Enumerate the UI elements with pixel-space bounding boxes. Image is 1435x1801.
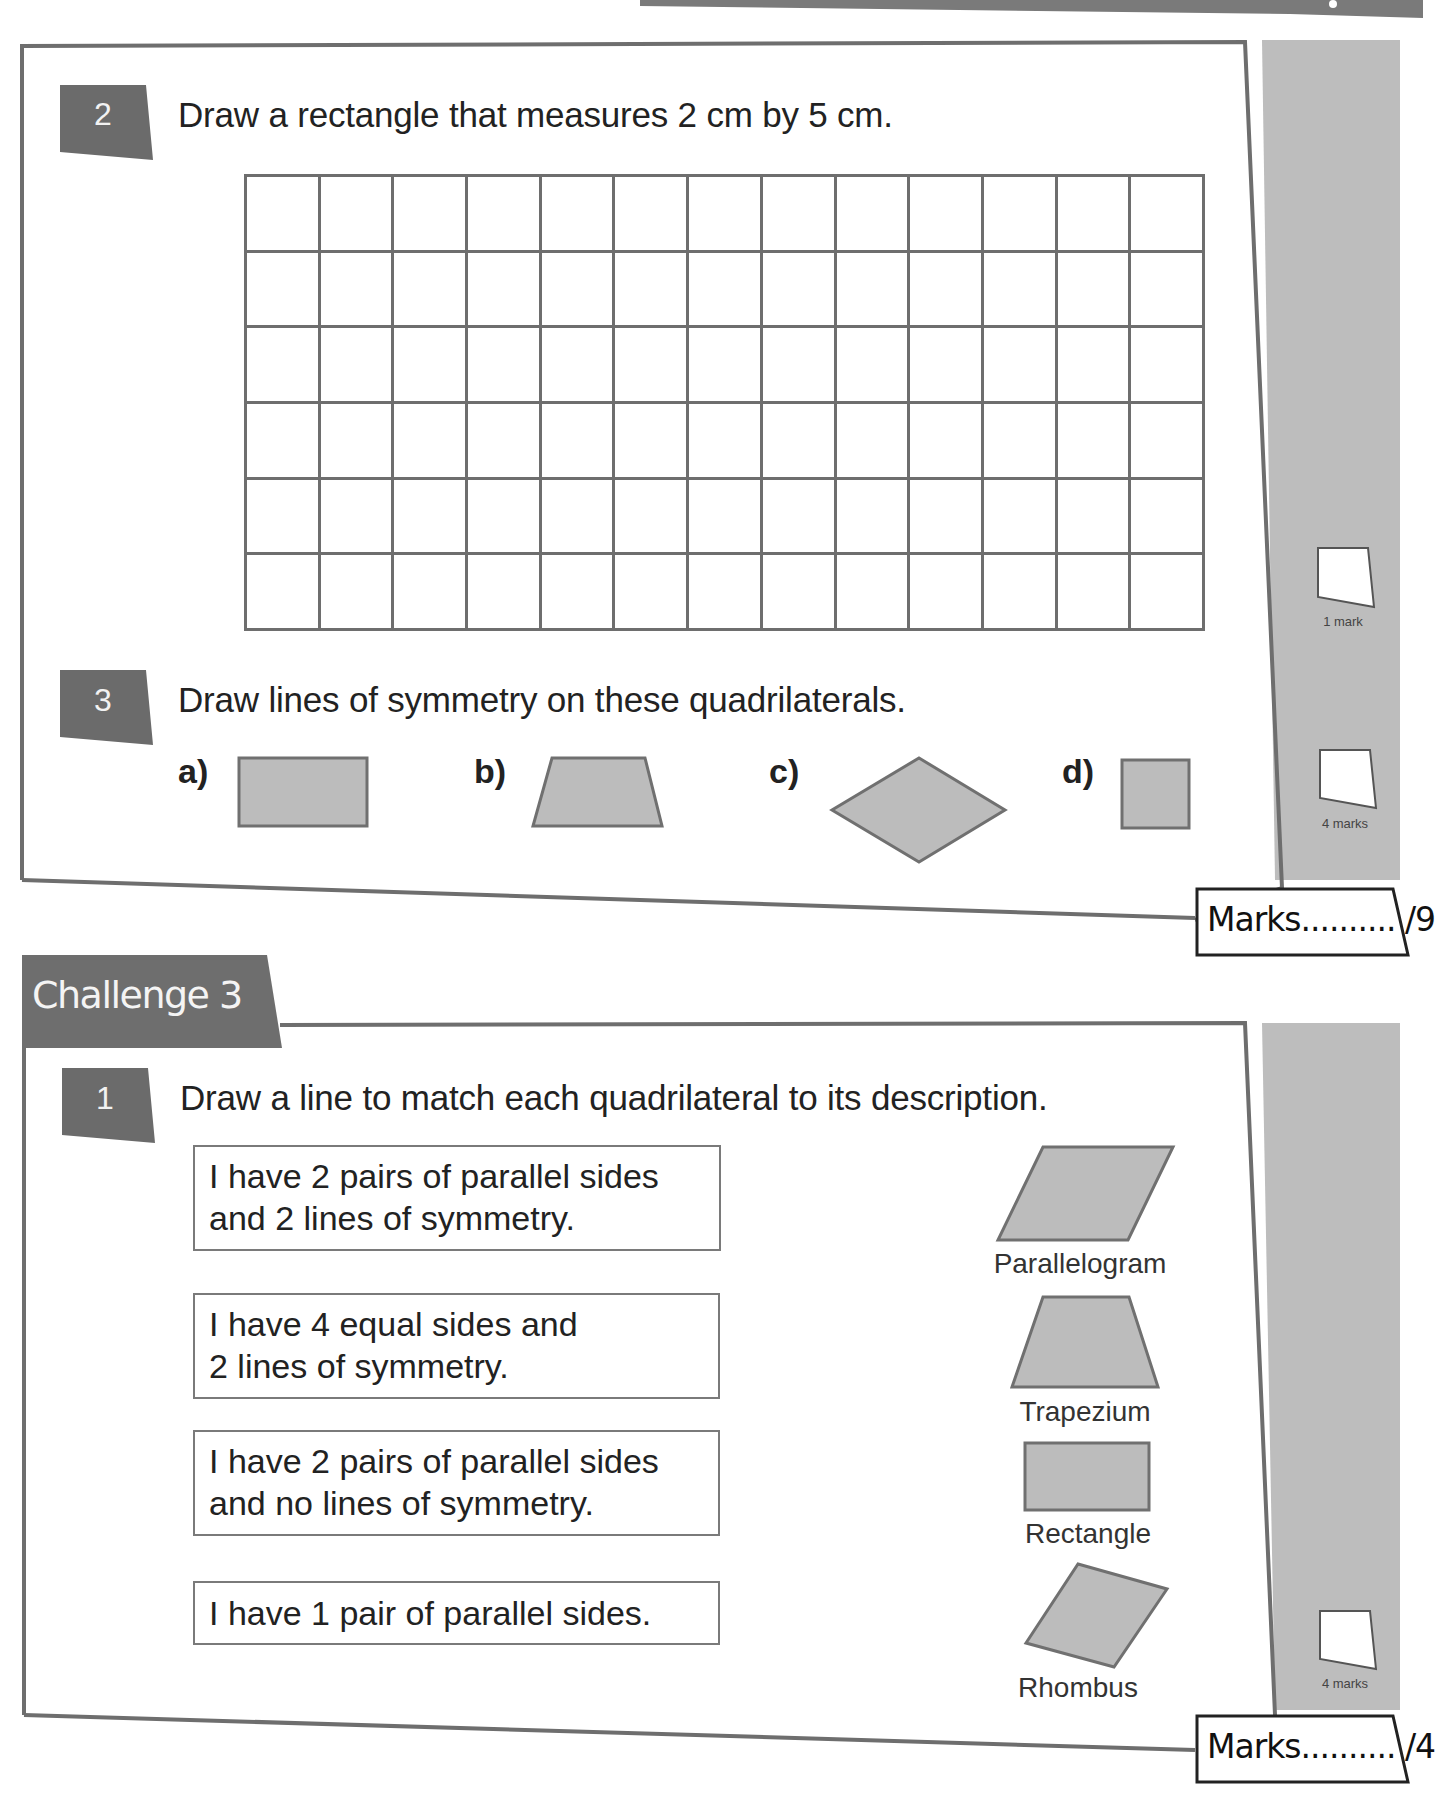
grid-cell[interactable] bbox=[1131, 328, 1205, 404]
grid-cell[interactable] bbox=[837, 555, 911, 631]
grid-cell[interactable] bbox=[763, 177, 837, 253]
grid-cell[interactable] bbox=[542, 555, 616, 631]
grid-cell[interactable] bbox=[615, 328, 689, 404]
question-3-number: 3 bbox=[60, 682, 146, 719]
shape-d-square bbox=[1122, 760, 1189, 828]
grid-cell[interactable] bbox=[910, 555, 984, 631]
grid-cell[interactable] bbox=[1131, 177, 1205, 253]
grid-cell[interactable] bbox=[468, 480, 542, 556]
grid-cell[interactable] bbox=[1058, 253, 1132, 329]
shape-label-rectangle: Rectangle bbox=[998, 1518, 1178, 1550]
grid-cell[interactable] bbox=[910, 404, 984, 480]
grid-cell[interactable] bbox=[468, 404, 542, 480]
grid-cell[interactable] bbox=[984, 480, 1058, 556]
grid-cell[interactable] bbox=[247, 480, 321, 556]
grid-cell[interactable] bbox=[1058, 555, 1132, 631]
grid-cell[interactable] bbox=[321, 253, 395, 329]
grid-cell[interactable] bbox=[689, 177, 763, 253]
grid-cell[interactable] bbox=[689, 253, 763, 329]
section-bottom-bottom-border bbox=[24, 1715, 1195, 1750]
mark-box-challenge[interactable] bbox=[1320, 1611, 1376, 1669]
grid-cell[interactable] bbox=[468, 253, 542, 329]
grid-cell[interactable] bbox=[394, 480, 468, 556]
grid-cell[interactable] bbox=[763, 404, 837, 480]
grid-cell[interactable] bbox=[689, 480, 763, 556]
grid-cell[interactable] bbox=[689, 404, 763, 480]
grid-cell[interactable] bbox=[615, 253, 689, 329]
grid-cell[interactable] bbox=[984, 404, 1058, 480]
mark-note-q3: 4 marks bbox=[1300, 816, 1390, 831]
grid-cell[interactable] bbox=[542, 253, 616, 329]
sidebar-bottom bbox=[1262, 1023, 1400, 1710]
grid-cell[interactable] bbox=[468, 328, 542, 404]
grid-cell[interactable] bbox=[763, 555, 837, 631]
grid-cell[interactable] bbox=[321, 177, 395, 253]
grid-cell[interactable] bbox=[910, 253, 984, 329]
grid-cell[interactable] bbox=[394, 404, 468, 480]
grid-cell[interactable] bbox=[689, 555, 763, 631]
grid-cell[interactable] bbox=[542, 480, 616, 556]
grid-cell[interactable] bbox=[321, 404, 395, 480]
shape-trapezium bbox=[1012, 1297, 1158, 1387]
grid-cell[interactable] bbox=[1058, 328, 1132, 404]
grid-cell[interactable] bbox=[321, 480, 395, 556]
grid-cell[interactable] bbox=[615, 480, 689, 556]
grid-cell[interactable] bbox=[984, 555, 1058, 631]
grid-cell[interactable] bbox=[910, 177, 984, 253]
grid-cell[interactable] bbox=[468, 555, 542, 631]
grid-cell[interactable] bbox=[984, 253, 1058, 329]
description-box-4[interactable]: I have 1 pair of parallel sides. bbox=[193, 1581, 720, 1645]
item-d-label: d) bbox=[1062, 752, 1094, 791]
grid-cell[interactable] bbox=[615, 177, 689, 253]
grid-cell[interactable] bbox=[247, 328, 321, 404]
grid-cell[interactable] bbox=[763, 253, 837, 329]
grid-cell[interactable] bbox=[615, 555, 689, 631]
grid-cell[interactable] bbox=[1058, 480, 1132, 556]
grid-cell[interactable] bbox=[1131, 404, 1205, 480]
grid-cell[interactable] bbox=[910, 480, 984, 556]
grid-cell[interactable] bbox=[247, 177, 321, 253]
grid-cell[interactable] bbox=[984, 328, 1058, 404]
grid-cell[interactable] bbox=[837, 480, 911, 556]
grid-cell[interactable] bbox=[542, 404, 616, 480]
grid-cell[interactable] bbox=[247, 404, 321, 480]
question-2-number: 2 bbox=[60, 96, 146, 133]
grid-cell[interactable] bbox=[542, 328, 616, 404]
grid-cell[interactable] bbox=[1058, 177, 1132, 253]
mark-box-q3[interactable] bbox=[1320, 750, 1376, 808]
grid-cell[interactable] bbox=[1131, 555, 1205, 631]
mark-note-q2: 1 mark bbox=[1298, 614, 1388, 629]
grid-cell[interactable] bbox=[615, 404, 689, 480]
drawing-grid[interactable] bbox=[244, 174, 1205, 631]
description-box-2[interactable]: I have 4 equal sides and 2 lines of symm… bbox=[193, 1293, 720, 1399]
grid-cell[interactable] bbox=[394, 253, 468, 329]
grid-cell[interactable] bbox=[763, 328, 837, 404]
grid-cell[interactable] bbox=[394, 328, 468, 404]
description-box-1[interactable]: I have 2 pairs of parallel sides and 2 l… bbox=[193, 1145, 721, 1251]
grid-cell[interactable] bbox=[247, 555, 321, 631]
grid-cell[interactable] bbox=[247, 253, 321, 329]
grid-cell[interactable] bbox=[763, 480, 837, 556]
shape-c-rhombus bbox=[832, 758, 1005, 862]
grid-cell[interactable] bbox=[1131, 253, 1205, 329]
grid-cell[interactable] bbox=[837, 253, 911, 329]
grid-cell[interactable] bbox=[321, 328, 395, 404]
item-b-label: b) bbox=[474, 752, 506, 791]
grid-cell[interactable] bbox=[910, 328, 984, 404]
grid-cell[interactable] bbox=[321, 555, 395, 631]
description-2-line-1: I have 4 equal sides and bbox=[209, 1303, 704, 1345]
item-a-label: a) bbox=[178, 752, 208, 791]
description-box-3[interactable]: I have 2 pairs of parallel sides and no … bbox=[193, 1430, 720, 1536]
grid-cell[interactable] bbox=[1058, 404, 1132, 480]
mark-box-q2[interactable] bbox=[1318, 548, 1374, 607]
grid-cell[interactable] bbox=[394, 555, 468, 631]
grid-cell[interactable] bbox=[542, 177, 616, 253]
grid-cell[interactable] bbox=[837, 328, 911, 404]
grid-cell[interactable] bbox=[689, 328, 763, 404]
grid-cell[interactable] bbox=[837, 404, 911, 480]
grid-cell[interactable] bbox=[1131, 480, 1205, 556]
grid-cell[interactable] bbox=[394, 177, 468, 253]
grid-cell[interactable] bbox=[468, 177, 542, 253]
grid-cell[interactable] bbox=[837, 177, 911, 253]
grid-cell[interactable] bbox=[984, 177, 1058, 253]
